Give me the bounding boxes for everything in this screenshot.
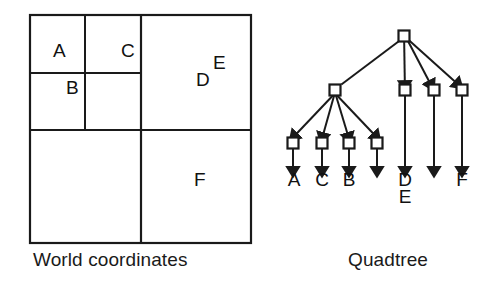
world-region-label-e: E <box>213 52 226 74</box>
tree-node-level2-1 <box>400 85 411 96</box>
world-region-label-b: B <box>66 77 79 99</box>
world-region-label-f: F <box>194 169 206 191</box>
tree-edge-root-to-child-1 <box>404 41 405 83</box>
world-region-label-d: D <box>196 69 210 91</box>
tree-leaf-label-a: A <box>287 169 301 191</box>
tree-leaf-label-b: B <box>342 169 356 191</box>
quadtree-figure: A C B D E F World coordinates A C B D E … <box>0 0 495 295</box>
tree-node-level2-3 <box>457 85 468 96</box>
tree-leaf-label-f: F <box>455 169 469 191</box>
quadtree-caption: Quadtree <box>348 249 428 271</box>
quadtree-diagram <box>288 31 468 169</box>
tree-edge-root-to-child-3 <box>409 41 456 83</box>
tree-node-level2-2 <box>429 85 440 96</box>
world-region-label-c: C <box>121 40 135 62</box>
tree-node-level3-3 <box>372 138 383 149</box>
tree-node-level2-0 <box>330 85 341 96</box>
tree-leaf-label-e: E <box>398 186 412 208</box>
world-coordinates-caption: World coordinates <box>33 249 187 271</box>
tree-edge-internal-to-leaf-0 <box>296 96 333 135</box>
tree-node-level3-0 <box>288 138 299 149</box>
world-region-label-a: A <box>53 40 66 62</box>
tree-node-level3-1 <box>317 138 328 149</box>
tree-leaf-label-c: C <box>315 169 329 191</box>
tree-edge-root-to-child-2 <box>408 41 430 83</box>
tree-node-root <box>399 31 410 42</box>
tree-edge-root-to-child-0 <box>341 42 398 85</box>
tree-node-level3-2 <box>344 138 355 149</box>
